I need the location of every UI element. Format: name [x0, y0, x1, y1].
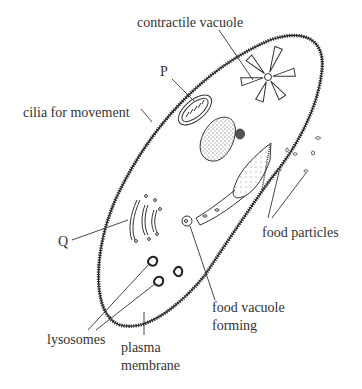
label-contractile-vacuole: contractile vacuole	[137, 15, 243, 31]
label-cilia: cilia for movement	[23, 105, 130, 121]
label-plasma-line1: plasma	[121, 340, 180, 356]
label-Q: Q	[58, 234, 68, 250]
food-particles	[277, 137, 321, 173]
label-lysosomes: lysosomes	[47, 332, 105, 348]
label-plasma-membrane: plasma membrane	[121, 340, 180, 374]
nucleus	[200, 117, 244, 161]
label-food-vacuole-line1: food vacuole	[212, 300, 285, 316]
lysosomes	[148, 257, 182, 286]
label-food-vacuole-line2: forming	[212, 318, 285, 334]
golgi-apparatus	[130, 195, 161, 243]
label-food-vacuole: food vacuole forming	[212, 300, 285, 334]
label-food-particles: food particles	[262, 225, 339, 241]
food-vacuole-gullet	[182, 143, 271, 226]
paramecium-diagram	[0, 0, 362, 389]
label-plasma-line2: membrane	[121, 358, 180, 374]
label-P: P	[160, 64, 168, 80]
